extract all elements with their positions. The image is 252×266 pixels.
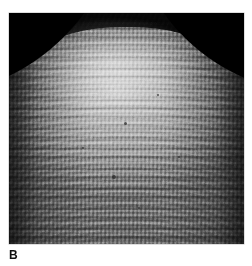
debris-speck [157,94,159,96]
debris-speck [82,147,84,149]
debris-speck [124,122,127,125]
sem-micrograph-image [9,13,244,244]
panel-label: B [9,248,18,262]
specimen-dome [9,27,244,244]
figure-panel: B [0,0,252,266]
